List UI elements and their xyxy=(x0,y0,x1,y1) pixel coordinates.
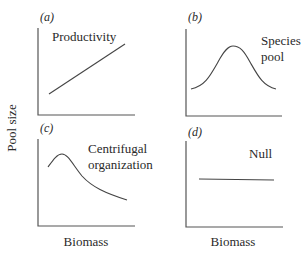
panel-d-tag: (d) xyxy=(188,125,202,139)
panel-b: (b) Species pool xyxy=(186,10,301,116)
panel-c: (c) Centrifugal organization xyxy=(38,121,153,226)
x-axis-title-left: Biomass xyxy=(64,234,109,249)
panel-a-tag: (a) xyxy=(40,10,54,24)
panel-a-curve xyxy=(49,44,125,94)
panel-a-label: Productivity xyxy=(52,29,117,44)
panel-c-label-line1: Centrifugal xyxy=(88,141,148,156)
figure-canvas: Pool size (a) Productivity (b) Species p… xyxy=(0,0,308,259)
y-axis-title: Pool size xyxy=(4,104,19,152)
panel-b-label-line2: pool xyxy=(261,49,285,64)
panel-a: (a) Productivity xyxy=(38,10,135,115)
panel-c-label-line2: organization xyxy=(88,157,153,172)
panel-d-label: Null xyxy=(249,146,273,161)
panel-d: (d) Null xyxy=(186,125,283,227)
panel-c-tag: (c) xyxy=(40,121,53,135)
panel-d-curve xyxy=(199,179,274,180)
panel-b-label-line1: Species xyxy=(261,33,301,48)
panel-b-tag: (b) xyxy=(188,10,202,24)
x-axis-title-right: Biomass xyxy=(211,234,256,249)
